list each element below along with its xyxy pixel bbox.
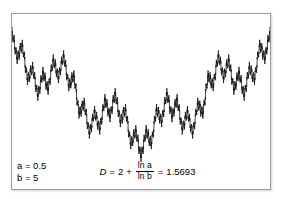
formula-equals-2: = (158, 166, 164, 177)
formula-fraction: ln a ln b (136, 161, 154, 182)
weierstrass-figure: a = 0.5 b = 5 D = 2 + ln a ln b = 1.5693 (0, 0, 285, 199)
param-a-label: a = 0.5 (17, 160, 46, 172)
parameter-labels: a = 0.5 b = 5 (17, 160, 46, 183)
curve-path (12, 27, 270, 162)
plot-frame: a = 0.5 b = 5 D = 2 + ln a ln b = 1.5693 (11, 13, 271, 190)
formula-result: 1.5693 (166, 166, 195, 177)
param-b-label: b = 5 (17, 172, 46, 184)
formula-lhs: D (100, 166, 107, 177)
formula-denominator: ln b (137, 172, 153, 182)
formula-plus: + (126, 166, 132, 177)
dimension-formula: D = 2 + ln a ln b = 1.5693 (98, 161, 197, 182)
formula-equals-1: = (109, 166, 115, 177)
formula-constant: 2 (118, 166, 123, 177)
formula-numerator: ln a (137, 161, 153, 171)
